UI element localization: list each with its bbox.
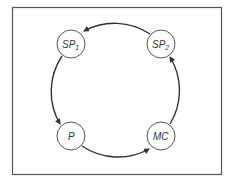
svg-text:MC: MC [153, 131, 169, 142]
svg-text:P: P [68, 131, 75, 142]
node-p: P [57, 122, 85, 150]
node-sp1: SP1 [57, 30, 85, 58]
edge-sp2-sp1 [84, 23, 150, 34]
node-sp2: SP2 [147, 30, 175, 58]
frame-border [13, 8, 222, 175]
edge-p-mc [82, 146, 149, 157]
edge-sp1-p [51, 56, 62, 124]
node-mc: MC [147, 122, 175, 150]
edge-mc-sp2 [170, 57, 179, 124]
cycle-diagram: SP1 SP2 P MC [0, 0, 232, 183]
